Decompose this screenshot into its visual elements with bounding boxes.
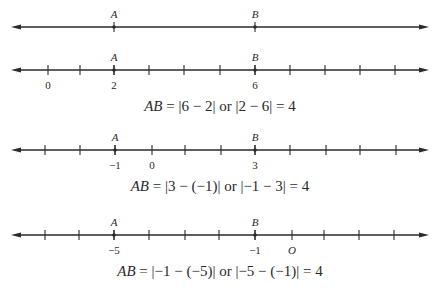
point-label-b: B [252,216,259,228]
point-dot [253,68,257,72]
arrow-left-icon [11,147,21,152]
point-dot [253,148,257,152]
arrow-right-icon [419,24,429,29]
point-dot [253,25,257,29]
segment-label: AB [117,263,135,279]
point-dot [253,233,257,237]
arrow-left-icon [11,24,21,29]
point-label-a: A [110,8,118,20]
distance-equation-1: AB = |6 − 2| or |2 − 6| = 4 [0,98,440,115]
point-label-a: A [111,131,119,143]
point-label-a: A [110,216,118,228]
point-dot [112,25,116,29]
arrow-right-icon [419,67,429,72]
arrow-left-icon [11,232,21,237]
tick-label: 0 [149,159,155,171]
tick-label: −5 [108,244,120,256]
arrow-right-icon [419,232,429,237]
distance-equation-2: AB = |3 − (−1)| or |−1 − 3| = 4 [0,178,440,195]
tick-label: 3 [252,159,258,171]
number-line-diagram: ABAB026AB−103AB−5−1O [0,0,440,294]
tick-label: O [288,244,296,256]
point-label-b: B [252,51,259,63]
point-dot [112,233,116,237]
point-dot [113,148,117,152]
point-label-a: A [110,51,118,63]
equation-body: = |−1 − (−5)| or |−5 − (−1)| = 4 [136,263,323,279]
equation-body: = |6 − 2| or |2 − 6| = 4 [162,98,295,114]
tick-label: 6 [252,79,258,91]
tick-label: −1 [109,159,121,171]
point-label-b: B [252,131,259,143]
arrow-right-icon [419,147,429,152]
tick-label: −1 [249,244,261,256]
segment-label: AB [144,98,162,114]
point-dot [112,68,116,72]
equation-body: = |3 − (−1)| or |−1 − 3| = 4 [149,178,309,194]
segment-label: AB [131,178,149,194]
arrow-left-icon [11,67,21,72]
distance-equation-3: AB = |−1 − (−5)| or |−5 − (−1)| = 4 [0,263,440,280]
tick-label: 2 [111,79,117,91]
point-label-b: B [252,8,259,20]
tick-label: 0 [45,79,51,91]
